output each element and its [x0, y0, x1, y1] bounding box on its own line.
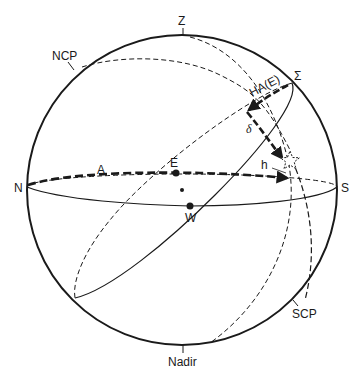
celestial-sphere-diagram: Z NCP Σ HA(E) δ h A N S E W SCP Nadir	[0, 0, 358, 375]
scp-tick	[293, 300, 298, 306]
label-west: W	[185, 211, 197, 225]
altitude-tick	[272, 168, 286, 173]
label-sigma: Σ	[294, 69, 301, 83]
label-north: N	[14, 181, 23, 195]
label-zenith: Z	[178, 14, 185, 28]
label-nadir: Nadir	[168, 355, 197, 369]
label-azimuth: A	[97, 163, 105, 177]
label-altitude: h	[261, 158, 268, 172]
label-scp: SCP	[292, 307, 317, 321]
label-declination: δ	[246, 122, 252, 136]
label-ncp: NCP	[52, 49, 77, 63]
label-east: E	[170, 156, 178, 170]
east-point	[173, 170, 180, 177]
star-icon	[281, 151, 300, 169]
declination-arc	[247, 112, 282, 158]
west-point	[187, 203, 194, 210]
label-hour-angle: HA(E)	[247, 72, 282, 100]
center-point	[180, 188, 184, 192]
label-south: S	[341, 181, 349, 195]
ncp-tick	[68, 62, 74, 70]
equator-front	[75, 83, 293, 298]
